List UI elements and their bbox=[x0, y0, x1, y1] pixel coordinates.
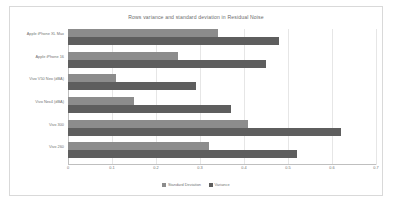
legend-item-label: Standard Deviation bbox=[168, 182, 201, 187]
bar-rows: Apple iPhone XL MaxApple iPhone 16Vivo V… bbox=[68, 29, 376, 165]
gridline bbox=[376, 29, 377, 165]
y-axis-category-label: Apple iPhone XL Max bbox=[27, 31, 64, 36]
x-axis-ticks: 00.10.20.30.40.50.60.7 bbox=[68, 165, 376, 173]
x-axis-tick-label: 0 bbox=[67, 165, 69, 170]
y-axis-category-label: Vivo V50 Neo (dBA) bbox=[29, 76, 64, 81]
x-axis-tick-label: 0.5 bbox=[285, 165, 290, 170]
chart-title: Rows variance and standard deviation in … bbox=[10, 14, 382, 20]
bar-standard-deviation bbox=[68, 74, 116, 82]
legend-item[interactable]: Variance bbox=[209, 182, 230, 187]
plot-area: Apple iPhone XL MaxApple iPhone 16Vivo V… bbox=[68, 29, 376, 165]
x-axis-tick-label: 0.2 bbox=[153, 165, 158, 170]
x-axis-tick-label: 0.6 bbox=[329, 165, 334, 170]
x-axis-tick-label: 0.3 bbox=[197, 165, 202, 170]
bar-row: Apple iPhone XL Max bbox=[68, 29, 376, 52]
bar-row: Apple iPhone 16 bbox=[68, 52, 376, 75]
legend-swatch-icon bbox=[209, 183, 213, 187]
bar-row: Vivo Nex4 (dBA) bbox=[68, 97, 376, 120]
y-axis-category-label: Vivo 260 bbox=[49, 144, 64, 149]
bar-variance bbox=[68, 150, 297, 158]
y-axis-category-label: Apple iPhone 16 bbox=[35, 54, 64, 59]
x-axis-tick-label: 0.1 bbox=[109, 165, 114, 170]
bar-standard-deviation bbox=[68, 97, 134, 105]
bar-row: Vivo 300 bbox=[68, 120, 376, 143]
legend-item[interactable]: Standard Deviation bbox=[162, 182, 201, 187]
bar-variance bbox=[68, 105, 231, 113]
bar-variance bbox=[68, 128, 341, 136]
bar-standard-deviation bbox=[68, 52, 178, 60]
bar-row: Vivo V50 Neo (dBA) bbox=[68, 74, 376, 97]
legend-swatch-icon bbox=[162, 183, 166, 187]
bar-variance bbox=[68, 60, 266, 68]
y-axis-category-label: Vivo Nex4 (dBA) bbox=[35, 99, 64, 104]
bar-row: Vivo 260 bbox=[68, 142, 376, 165]
chart-legend: Standard DeviationVariance bbox=[10, 182, 382, 187]
bar-standard-deviation bbox=[68, 29, 218, 37]
chart-container: Rows variance and standard deviation in … bbox=[9, 6, 383, 196]
bar-standard-deviation bbox=[68, 120, 248, 128]
bar-variance bbox=[68, 37, 279, 45]
y-axis-category-label: Vivo 300 bbox=[49, 122, 64, 127]
x-axis-tick-label: 0.7 bbox=[373, 165, 378, 170]
bar-variance bbox=[68, 82, 196, 90]
legend-item-label: Variance bbox=[215, 182, 230, 187]
bar-standard-deviation bbox=[68, 142, 209, 150]
x-axis-tick-label: 0.4 bbox=[241, 165, 246, 170]
